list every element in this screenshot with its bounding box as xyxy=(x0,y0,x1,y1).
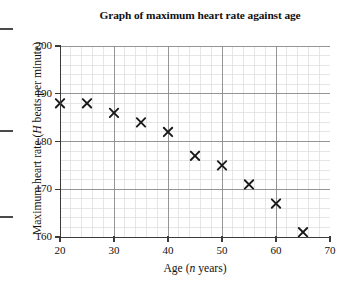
y-axis-title-post: beats per minute) xyxy=(31,42,44,125)
x-tick-label: 20 xyxy=(40,245,80,256)
x-axis-title-pre: Age ( xyxy=(163,262,189,275)
data-point xyxy=(272,199,280,207)
page-margin-dash xyxy=(0,216,13,218)
x-tick-label: 30 xyxy=(94,245,134,256)
x-tick-label: 70 xyxy=(310,245,350,256)
x-tick-label: 40 xyxy=(148,245,188,256)
y-axis-title: Maximum heart rate (H beats per minute) xyxy=(31,24,44,254)
data-point xyxy=(164,128,172,136)
x-tick-mark xyxy=(59,236,60,242)
chart-title: Graph of maximum heart rate against age xyxy=(60,9,340,21)
x-tick-label: 60 xyxy=(256,245,296,256)
data-point xyxy=(299,228,307,236)
x-tick-mark xyxy=(329,236,330,242)
x-tick-mark xyxy=(167,236,168,242)
y-axis-variable: H xyxy=(31,125,44,133)
y-tick-mark xyxy=(55,45,61,46)
page-margin-dash xyxy=(0,28,13,30)
data-points-layer xyxy=(60,46,330,237)
data-point xyxy=(137,118,145,126)
y-tick-mark xyxy=(55,93,61,94)
data-point xyxy=(245,180,253,188)
y-tick-mark xyxy=(55,141,61,142)
page-margin-dash xyxy=(0,130,13,132)
chart-figure: Graph of maximum heart rate against age … xyxy=(0,0,354,294)
data-point xyxy=(83,99,91,107)
x-axis-line xyxy=(60,237,331,238)
x-tick-mark xyxy=(221,236,222,242)
data-point xyxy=(218,161,226,169)
x-axis-title: Age (n years) xyxy=(60,262,330,275)
x-tick-label: 50 xyxy=(202,245,242,256)
plot-area xyxy=(60,46,330,237)
x-tick-mark xyxy=(113,236,114,242)
y-axis-title-pre: Maximum heart rate ( xyxy=(31,134,44,235)
x-tick-mark xyxy=(275,236,276,242)
x-axis-title-post: years) xyxy=(195,262,226,275)
y-tick-mark xyxy=(55,189,61,190)
data-point xyxy=(110,109,118,117)
data-point xyxy=(191,152,199,160)
